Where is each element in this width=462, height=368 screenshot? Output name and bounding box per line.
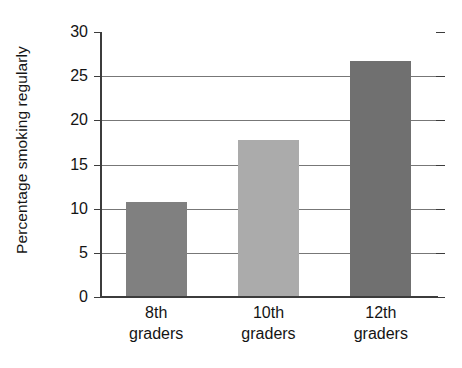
y-axis-label-container: Percentage smoking regularly xyxy=(2,0,42,300)
x-axis-tick-label-line2: graders xyxy=(100,323,212,344)
x-axis-tick-label: 10thgraders xyxy=(212,302,324,344)
x-axis-tick-label-line2: graders xyxy=(325,323,437,344)
bar xyxy=(126,202,187,297)
x-axis-tick-label: 12thgraders xyxy=(325,302,437,344)
y-axis-tick-mark-right xyxy=(436,32,445,33)
x-axis-tick-label-line2: graders xyxy=(212,323,324,344)
y-axis-tick-label: 15 xyxy=(70,156,88,174)
y-axis-tick-labels: 051015202530 xyxy=(48,32,94,297)
y-axis-tick-mark-right xyxy=(436,209,445,210)
y-axis-tick-label: 30 xyxy=(70,23,88,41)
plot-area xyxy=(100,32,437,297)
y-axis-label: Percentage smoking regularly xyxy=(13,46,31,254)
y-axis-tick-label: 20 xyxy=(70,111,88,129)
y-axis-tick-label: 25 xyxy=(70,67,88,85)
y-axis-line xyxy=(100,32,102,298)
y-axis-tick-label: 5 xyxy=(79,244,88,262)
x-axis-tick-label-line1: 12th xyxy=(365,304,396,321)
bar xyxy=(238,140,299,297)
y-axis-tick-mark-right xyxy=(436,165,445,166)
y-axis-tick-mark-right xyxy=(436,253,445,254)
x-axis-tick-label: 8thgraders xyxy=(100,302,212,344)
y-axis-tick-label: 0 xyxy=(79,288,88,306)
x-axis-tick-label-line1: 10th xyxy=(253,304,284,321)
x-axis-line xyxy=(100,296,438,298)
bar xyxy=(350,61,411,297)
x-axis-tick-labels: 8thgraders10thgraders12thgraders xyxy=(100,300,437,362)
y-axis-tick-mark-right xyxy=(436,120,445,121)
x-axis-tick-label-line1: 8th xyxy=(145,304,167,321)
bar-chart-figure: Percentage smoking regularly 05101520253… xyxy=(0,0,462,368)
y-axis-tick-label: 10 xyxy=(70,200,88,218)
y-axis-tick-mark-right xyxy=(436,76,445,77)
